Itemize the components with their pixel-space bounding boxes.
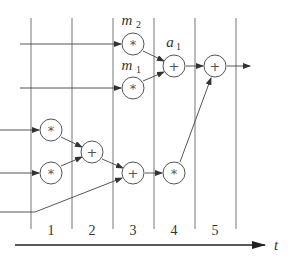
node-add-c3: +	[122, 162, 144, 184]
label-m1-sub: 1	[136, 64, 141, 75]
node-mul-c4: *	[163, 162, 185, 184]
column-label-3: 3	[130, 223, 137, 238]
label-m1: m	[122, 57, 133, 73]
node-a1: +	[163, 55, 185, 77]
time-axis-label: t	[274, 237, 279, 253]
node-m1: *	[122, 77, 144, 99]
node-mul-c1-top: *	[40, 119, 62, 141]
label-a1: a	[166, 34, 174, 50]
svg-text:+: +	[87, 145, 98, 160]
node-mul-c1-bottom: *	[40, 162, 62, 184]
column-label-4: 4	[171, 223, 178, 238]
svg-text:*: *	[48, 166, 55, 181]
dataflow-schedule-diagram: 1 2 3 4 5 t * m 2	[0, 0, 288, 259]
label-m2: m	[122, 12, 133, 28]
label-a1-sub: 1	[176, 41, 181, 52]
column-label-5: 5	[212, 223, 219, 238]
column-label-2: 2	[89, 223, 96, 238]
node-m2: *	[122, 33, 144, 55]
column-label-1: 1	[48, 223, 55, 238]
svg-text:+: +	[210, 59, 221, 74]
node-final-add: +	[204, 55, 226, 77]
svg-text:*: *	[130, 81, 137, 96]
svg-text:*: *	[48, 123, 55, 138]
svg-text:+: +	[128, 166, 139, 181]
node-add-c2: +	[81, 141, 103, 163]
svg-text:+: +	[169, 59, 180, 74]
svg-text:*: *	[171, 166, 178, 181]
svg-text:*: *	[130, 37, 137, 52]
label-m2-sub: 2	[136, 19, 141, 30]
